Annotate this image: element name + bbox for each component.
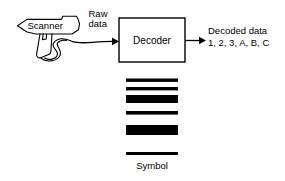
symbol-label: Symbol	[136, 160, 168, 171]
decoded-data-arrow-head	[199, 37, 206, 44]
diagram-svg: Scanner Raw data Decoder Decoded data 1,…	[0, 0, 285, 181]
raw-data-edge: Raw data	[73, 8, 119, 46]
barcode-bar	[126, 79, 178, 82]
scanner-node[interactable]: Scanner	[18, 16, 80, 61]
decoder-label: Decoder	[133, 35, 171, 46]
raw-data-label-line2: data	[89, 18, 108, 29]
decoded-data-text: Decoded data 1, 2, 3, A, B, C	[208, 25, 269, 49]
scanner-label: Scanner	[28, 20, 63, 31]
barcode-bar	[126, 152, 178, 155]
raw-data-arrow-head	[112, 38, 119, 46]
raw-data-label-line1: Raw	[89, 8, 108, 19]
decoded-data-line1: Decoded data	[208, 25, 268, 36]
decoded-data-line2: 1, 2, 3, A, B, C	[208, 37, 269, 48]
raw-data-arrow-line	[73, 41, 113, 42]
barcode-bar	[126, 125, 178, 135]
scanner-trigger	[42, 34, 46, 40]
barcode-bar	[126, 87, 178, 90]
decoded-data-edge	[185, 37, 206, 44]
barcode-bar	[126, 95, 178, 103]
scanner-handle-outline	[37, 34, 52, 58]
diagram-canvas: Scanner Raw data Decoder Decoded data 1,…	[0, 0, 285, 181]
decoder-node[interactable]: Decoder	[119, 18, 185, 62]
barcode-symbol: Symbol	[126, 79, 178, 172]
barcode-bar	[126, 111, 178, 115]
